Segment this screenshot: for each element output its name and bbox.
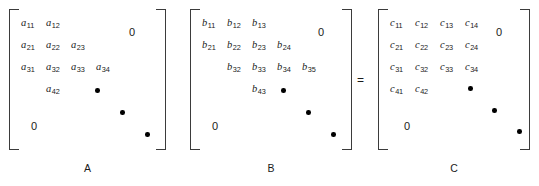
matrix-c-cell-31: c31 — [390, 62, 403, 73]
matrix-b-cell-22: b22 — [227, 40, 240, 51]
matrix-b-cell-13: b13 — [252, 18, 265, 29]
matrix-c-zero-upper-right: 0 — [496, 27, 502, 38]
matrix-c-cell-34: c34 — [465, 62, 478, 73]
matrix-c-zero-lower-left: 0 — [404, 121, 410, 132]
matrix-a-cell-42: a42 — [46, 84, 59, 95]
matrix-a-ellipsis-dot-2 — [120, 110, 125, 115]
matrix-a-cell-33: a33 — [71, 62, 84, 73]
matrix-c-cell-33: c33 — [440, 62, 453, 73]
matrix-a-cell-21: a21 — [21, 40, 34, 51]
matrix-c-ellipsis-dot-3 — [517, 129, 522, 134]
matrix-c-ellipsis-dot-2 — [492, 108, 497, 113]
matrix-a-zero-lower-left: 0 — [31, 121, 37, 132]
matrix-a-right-bracket — [156, 9, 166, 150]
matrix-c-cell-42: c42 — [415, 84, 428, 95]
matrix-b-cell-32: b32 — [227, 62, 240, 73]
matrix-a-cell-11: a11 — [21, 18, 34, 29]
matrix-b-cell-43: b43 — [252, 84, 265, 95]
matrix-c-cell-32: c32 — [415, 62, 428, 73]
matrix-a-cell-12: a12 — [46, 18, 59, 29]
matrix-b-ellipsis-dot-1 — [281, 88, 286, 93]
matrix-b-cell-12: b12 — [227, 18, 240, 29]
matrix-b-right-bracket — [342, 9, 352, 150]
matrix-c-cell-21: c21 — [390, 40, 403, 51]
matrix-c-cell-11: c11 — [390, 18, 402, 29]
matrix-b-caption: B — [190, 163, 352, 174]
matrix-a-cell-34: a34 — [96, 62, 109, 73]
matrix-b: b11 b12 b13 b21 b22 b23 b24 b32 b33 b34 … — [190, 9, 352, 150]
matrix-c-ellipsis-dot-1 — [468, 86, 473, 91]
matrix-a-zero-upper-right: 0 — [129, 27, 135, 38]
matrix-a-cell-23: a23 — [71, 40, 84, 51]
matrix-c-right-bracket — [520, 9, 530, 150]
matrix-b-cell-34: b34 — [277, 62, 290, 73]
matrix-b-cell-33: b33 — [252, 62, 265, 73]
matrix-c-cell-41: c41 — [390, 84, 403, 95]
matrix-a-ellipsis-dot-1 — [95, 88, 100, 93]
matrix-b-zero-upper-right: 0 — [318, 27, 324, 38]
matrix-a-left-bracket — [9, 9, 19, 150]
matrix-b-cell-35: b35 — [302, 62, 315, 73]
matrix-c-cell-12: c12 — [415, 18, 428, 29]
matrix-c-caption: C — [378, 163, 530, 174]
matrix-c-cell-24: c24 — [465, 40, 478, 51]
matrix-a: a11 a12 a21 a22 a23 a31 a32 a33 a34 a42 … — [9, 9, 166, 150]
matrix-b-left-bracket — [190, 9, 200, 150]
matrix-b-ellipsis-dot-2 — [306, 110, 311, 115]
matrix-b-cell-23: b23 — [252, 40, 265, 51]
matrix-b-cell-21: b21 — [202, 40, 215, 51]
matrix-equation-figure: a11 a12 a21 a22 a23 a31 a32 a33 a34 a42 … — [0, 0, 539, 186]
matrix-c-cell-22: c22 — [415, 40, 428, 51]
matrix-b-cell-24: b24 — [277, 40, 290, 51]
matrix-b-zero-lower-left: 0 — [212, 121, 218, 132]
matrix-c: c11 c12 c13 c14 c21 c22 c23 c24 c31 c32 … — [378, 9, 530, 150]
matrix-c-left-bracket — [378, 9, 388, 150]
matrix-c-cell-14: c14 — [465, 18, 478, 29]
matrix-c-cell-13: c13 — [440, 18, 453, 29]
matrix-a-cell-31: a31 — [21, 62, 34, 73]
matrix-a-caption: A — [9, 163, 166, 174]
equals-sign: = — [357, 74, 364, 86]
matrix-a-cell-22: a22 — [46, 40, 59, 51]
matrix-b-ellipsis-dot-3 — [331, 132, 336, 137]
matrix-b-cell-11: b11 — [202, 18, 215, 29]
matrix-c-cell-23: c23 — [440, 40, 453, 51]
matrix-a-ellipsis-dot-3 — [145, 132, 150, 137]
matrix-a-cell-32: a32 — [46, 62, 59, 73]
